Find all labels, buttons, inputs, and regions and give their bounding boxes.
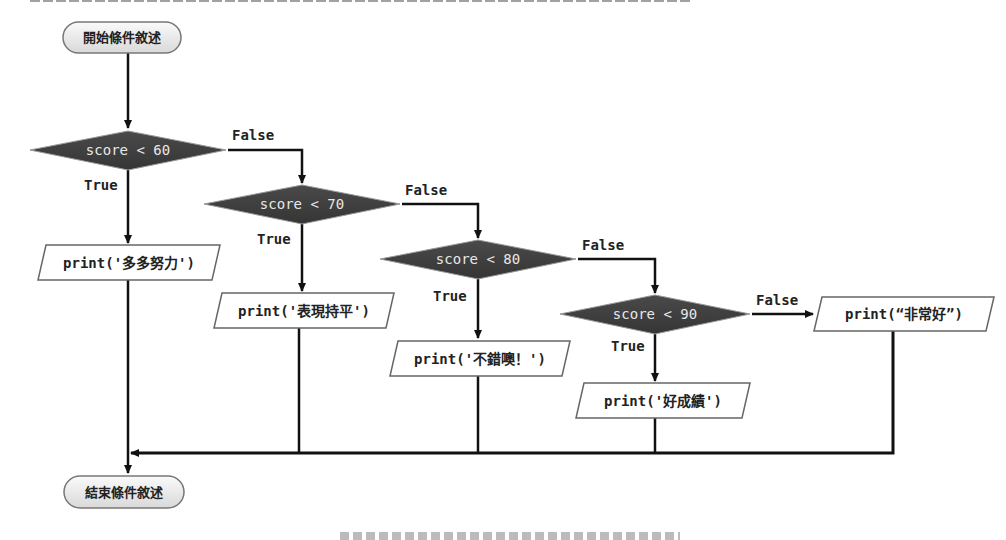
d3-true-label: True (433, 288, 467, 304)
arrow-d3-false (578, 259, 655, 293)
arrow-d1-false (228, 150, 302, 183)
output-1-text: print('多多努力') (63, 255, 195, 271)
decision-1-condition: score < 60 (86, 142, 170, 158)
start-label: 開始條件敘述 (83, 30, 161, 45)
decision-4-condition: score < 90 (613, 306, 697, 322)
start-terminal: 開始條件敘述 (63, 22, 181, 53)
output-1: print('多多努力') (38, 245, 220, 280)
cropped-caption-text (340, 532, 680, 540)
decision-1: score < 60 (30, 131, 226, 170)
d1-true-label: True (84, 177, 118, 193)
decision-4: score < 90 (560, 295, 750, 334)
d3-false-label: False (582, 237, 624, 253)
decision-3: score < 80 (380, 240, 576, 279)
output-4-text: print('好成績') (604, 393, 722, 409)
output-3-text: print('不錯噢！') (414, 351, 546, 367)
d1-false-label: False (232, 127, 274, 143)
d2-true-label: True (257, 231, 291, 247)
d4-true-label: True (611, 338, 645, 354)
end-label: 結束條件敘述 (85, 485, 163, 500)
output-2-text: print('表現持平') (238, 303, 370, 319)
end-terminal: 結束條件敘述 (64, 476, 184, 508)
output-5-text: print(“非常好”) (845, 306, 963, 322)
arrow-d2-false (402, 204, 478, 238)
d2-false-label: False (405, 182, 447, 198)
decision-3-condition: score < 80 (436, 251, 520, 267)
d4-false-label: False (756, 292, 798, 308)
output-5: print(“非常好”) (814, 297, 994, 331)
output-4: print('好成績') (576, 383, 750, 418)
output-2: print('表現持平') (214, 293, 394, 328)
output-3: print('不錯噢！') (390, 341, 570, 376)
decision-2: score < 70 (204, 185, 400, 224)
decision-2-condition: score < 70 (260, 196, 344, 212)
